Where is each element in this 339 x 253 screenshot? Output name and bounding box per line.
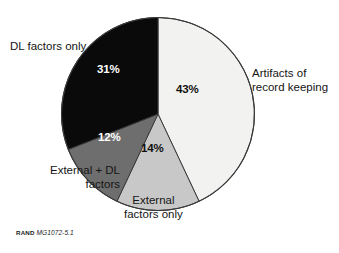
- pie-label-external-dl-line1: External + DL: [16, 164, 120, 178]
- pie-value-dl: 31%: [97, 63, 119, 75]
- pie-value-external: 14%: [141, 142, 163, 154]
- pie-label-external-line1: External: [124, 194, 183, 208]
- source-organization: RAND: [16, 229, 35, 236]
- pie-label-dl-line1: DL factors only: [10, 40, 86, 54]
- pie-label-external-dl-line2: factors: [16, 178, 120, 192]
- pie-label-external-dl: External + DL factors: [16, 164, 120, 191]
- pie-value-external-dl: 12%: [98, 131, 120, 143]
- pie-chart-figure: 43% 14% 12% 31% DL factors only Artifact…: [0, 0, 339, 253]
- pie-label-artifacts-line1: Artifacts of: [252, 67, 328, 81]
- pie-label-dl: DL factors only: [10, 40, 86, 54]
- pie-label-artifacts-line2: record keeping: [252, 81, 328, 95]
- pie-label-external: External factors only: [124, 194, 183, 221]
- pie-label-artifacts: Artifacts of record keeping: [252, 67, 328, 94]
- pie-value-artifacts: 43%: [176, 83, 198, 95]
- source-credit: RAND MG1072-5.1: [16, 229, 74, 236]
- pie-label-external-line2: factors only: [124, 208, 183, 222]
- source-figure-id: MG1072-5.1: [37, 229, 74, 236]
